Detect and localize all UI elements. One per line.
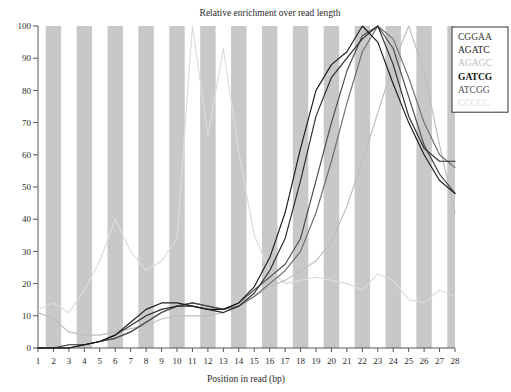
y-tick-group: 0102030405060708090100: [18, 21, 39, 353]
x-tick-label: 3: [67, 356, 72, 366]
background-band: [293, 26, 308, 348]
x-tick-label: 26: [420, 356, 430, 366]
y-tick-label: 100: [18, 21, 32, 31]
plot-background-bands: [46, 26, 455, 348]
y-tick-label: 80: [22, 86, 32, 96]
x-tick-label: 4: [82, 356, 87, 366]
legend-item-gatcg: GATCG: [458, 72, 493, 82]
x-tick-label: 24: [389, 356, 399, 366]
x-tick-label: 9: [159, 356, 164, 366]
x-tick-label: 13: [219, 356, 229, 366]
legend-item-agatc: AGATC: [458, 45, 490, 55]
background-band: [77, 26, 92, 348]
legend-item-agagc: AGAGC: [458, 58, 492, 68]
x-tick-label: 25: [404, 356, 414, 366]
background-band: [46, 26, 61, 348]
background-band: [386, 26, 401, 348]
y-tick-label: 70: [22, 118, 32, 128]
x-tick-label: 11: [188, 356, 197, 366]
x-tick-label: 23: [373, 356, 383, 366]
x-tick-label: 7: [128, 356, 133, 366]
x-tick-label: 28: [451, 356, 461, 366]
x-tick-label: 14: [234, 356, 244, 366]
legend: CGGAAAGATCAGAGCGATCGATCGGCCCCC: [452, 27, 508, 112]
x-tick-label: 6: [113, 356, 118, 366]
x-axis: 1234567891011121314151617181920212223242…: [36, 348, 460, 366]
background-band: [355, 26, 370, 348]
background-band: [200, 26, 215, 348]
legend-item-cggaa: CGGAA: [458, 32, 492, 42]
x-tick-label: 16: [265, 356, 275, 366]
y-tick-label: 30: [22, 247, 32, 257]
y-tick-label: 0: [27, 343, 32, 353]
y-tick-label: 20: [22, 279, 32, 289]
x-tick-label: 22: [358, 356, 367, 366]
x-tick-label: 5: [98, 356, 103, 366]
x-tick-label: 2: [51, 356, 56, 366]
y-axis: 0102030405060708090100: [18, 21, 39, 353]
background-band: [231, 26, 246, 348]
x-tick-label: 27: [435, 356, 445, 366]
x-tick-label: 21: [342, 356, 351, 366]
y-tick-label: 10: [22, 311, 32, 321]
x-tick-label: 8: [144, 356, 149, 366]
background-band: [262, 26, 277, 348]
x-tick-label: 1: [36, 356, 41, 366]
x-axis-label: Position in read (bp): [207, 374, 285, 385]
y-tick-label: 60: [22, 150, 32, 160]
y-tick-label: 40: [22, 214, 32, 224]
x-tick-label: 20: [327, 356, 337, 366]
x-tick-label: 18: [296, 356, 306, 366]
y-tick-label: 50: [22, 182, 32, 192]
background-band: [138, 26, 153, 348]
legend-item-ccccc: CCCCC: [458, 98, 490, 108]
background-band: [108, 26, 123, 348]
x-tick-group: 1234567891011121314151617181920212223242…: [36, 348, 460, 366]
relative-enrichment-line-chart: Relative enrichment over read length 010…: [0, 0, 511, 392]
x-tick-label: 12: [203, 356, 212, 366]
chart-title: Relative enrichment over read length: [200, 8, 341, 18]
chart-figure: Relative enrichment over read length 010…: [0, 0, 511, 392]
x-tick-label: 19: [312, 356, 322, 366]
x-tick-label: 17: [281, 356, 291, 366]
x-tick-label: 10: [173, 356, 183, 366]
legend-item-atcgg: ATCGG: [458, 85, 490, 95]
x-tick-label: 15: [250, 356, 260, 366]
background-band: [169, 26, 184, 348]
background-band: [416, 26, 431, 348]
y-tick-label: 90: [22, 53, 32, 63]
